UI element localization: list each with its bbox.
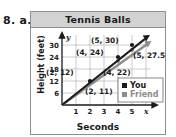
point-label-2-11: (2, 11)	[85, 87, 113, 96]
figure-panel: Tennis Balls Height (feet)	[30, 11, 166, 135]
x-tick-labels: 1 2 3 4 5	[74, 108, 135, 116]
legend-label-you: You	[129, 81, 147, 90]
x-axis-variable: x	[143, 107, 149, 116]
figure-root: 8. a. Tennis Balls Height (feet)	[0, 0, 176, 137]
legend-label-friend: Friend	[130, 90, 159, 99]
y-tick-label: 12	[49, 78, 59, 86]
problem-number: 8. a.	[3, 14, 32, 27]
y-tick-label: 6	[54, 90, 59, 98]
x-tick-label: 2	[88, 108, 93, 116]
point-label-4-24: (4, 24)	[76, 48, 104, 57]
point-label-2-12: (2, 12)	[46, 68, 74, 77]
legend-swatch-you	[122, 83, 127, 88]
x-tick-label: 1	[74, 108, 79, 116]
x-axis-title: Seconds	[31, 122, 165, 132]
y-tick-label: 30	[49, 42, 59, 50]
x-tick-label: 5	[130, 108, 135, 116]
point-label-4-22: (4, 22)	[103, 68, 131, 77]
chart-legend: You Friend	[118, 78, 163, 102]
chart-title: Tennis Balls	[31, 14, 165, 25]
x-tick-label: 4	[116, 108, 121, 116]
point-label-5-27-5: (5, 27.5)	[133, 51, 165, 60]
x-tick-label: 3	[102, 108, 107, 116]
plot-area: 6 12 18 24 30 1 2 3 4 5 y x (5, 30) (4, …	[45, 30, 165, 119]
legend-swatch-friend	[122, 92, 127, 97]
y-tick-label: 24	[49, 54, 59, 62]
y-axis-variable: y	[65, 33, 71, 42]
point-label-5-30: (5, 30)	[91, 36, 119, 45]
panel-header: Tennis Balls	[31, 12, 165, 28]
